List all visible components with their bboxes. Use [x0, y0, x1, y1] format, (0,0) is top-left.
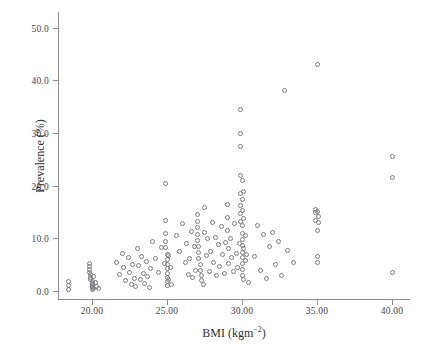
data-point: [195, 225, 200, 230]
x-axis-tick: [392, 299, 393, 305]
data-point: [285, 248, 290, 253]
x-axis-title-base: BMI (kgm: [202, 326, 253, 340]
data-point: [189, 229, 194, 234]
data-point: [91, 274, 96, 279]
data-point: [243, 233, 248, 238]
data-point: [135, 246, 140, 251]
data-point: [187, 256, 192, 261]
data-point: [261, 232, 266, 237]
x-axis-tick: [317, 299, 318, 305]
data-point: [136, 263, 141, 268]
data-point: [238, 173, 243, 178]
data-point: [202, 230, 207, 235]
data-point: [390, 175, 395, 180]
data-point: [223, 240, 228, 245]
data-point: [174, 233, 179, 238]
data-point: [234, 251, 239, 256]
y-axis-tick-label: 40.0: [32, 76, 49, 86]
data-point: [315, 254, 320, 259]
data-point: [211, 260, 216, 265]
data-point: [315, 228, 320, 233]
data-point: [96, 286, 101, 291]
data-point: [210, 220, 215, 225]
data-point: [196, 244, 201, 249]
data-point: [238, 131, 243, 136]
data-point: [214, 273, 219, 278]
plot-area: 0.010.020.030.040.050.0 20.0025.0030.003…: [58, 12, 410, 300]
data-point: [180, 221, 185, 226]
data-point: [241, 189, 246, 194]
data-points-layer: [59, 12, 410, 299]
data-point: [205, 236, 210, 241]
data-point: [316, 220, 321, 225]
data-point: [190, 275, 195, 280]
x-axis-tick-label: 35.00: [306, 306, 328, 316]
data-point: [123, 278, 128, 283]
data-point: [150, 239, 155, 244]
data-point: [163, 218, 168, 223]
data-point: [148, 266, 153, 271]
data-point: [127, 270, 132, 275]
data-point: [282, 88, 287, 93]
data-point: [168, 265, 173, 270]
data-point: [225, 202, 230, 207]
scatter-plot-figure: 0.010.020.030.040.050.0 20.0025.0030.003…: [0, 0, 428, 355]
data-point: [198, 262, 203, 267]
data-point: [255, 223, 260, 228]
data-point: [276, 239, 281, 244]
x-axis-title: BMI (kgm−2): [58, 325, 410, 341]
data-point: [117, 272, 122, 277]
data-point: [208, 249, 213, 254]
data-point: [213, 235, 218, 240]
data-point: [220, 252, 225, 257]
data-point: [226, 261, 231, 266]
data-point: [216, 242, 221, 247]
data-point: [315, 209, 320, 214]
data-point: [240, 223, 245, 228]
data-point: [195, 212, 200, 217]
y-axis-title: Prevalence (%): [33, 119, 48, 193]
data-point: [232, 221, 237, 226]
data-point: [184, 241, 189, 246]
data-point: [156, 270, 161, 275]
data-point: [246, 280, 251, 285]
data-point: [133, 284, 138, 289]
data-point: [217, 264, 222, 269]
data-point: [225, 215, 230, 220]
data-point: [120, 251, 125, 256]
data-point: [195, 219, 200, 224]
data-point: [228, 236, 233, 241]
data-point: [229, 255, 234, 260]
data-point: [163, 239, 168, 244]
data-point: [121, 265, 126, 270]
data-point: [240, 197, 245, 202]
x-axis-tick: [167, 299, 168, 305]
data-point: [207, 269, 212, 274]
data-point: [183, 260, 188, 265]
data-point: [195, 238, 200, 243]
data-point: [243, 258, 248, 263]
y-axis-tick-label: 50.0: [32, 24, 49, 34]
data-point: [166, 253, 171, 258]
data-point: [201, 282, 206, 287]
data-point: [244, 252, 249, 257]
x-axis-tick: [92, 299, 93, 305]
data-point: [204, 253, 209, 258]
data-point: [270, 230, 275, 235]
data-point: [225, 228, 230, 233]
data-point: [66, 287, 71, 292]
data-point: [238, 144, 243, 149]
y-axis-tick-label: 10.0: [32, 234, 49, 244]
data-point: [163, 245, 168, 250]
data-point: [238, 107, 243, 112]
data-point: [144, 259, 149, 264]
data-point: [273, 262, 278, 267]
data-point: [240, 208, 245, 213]
data-point: [139, 254, 144, 259]
data-point: [279, 273, 284, 278]
data-point: [198, 268, 203, 273]
data-point: [177, 249, 182, 254]
data-point: [145, 274, 150, 279]
data-point: [315, 260, 320, 265]
data-point: [202, 205, 207, 210]
